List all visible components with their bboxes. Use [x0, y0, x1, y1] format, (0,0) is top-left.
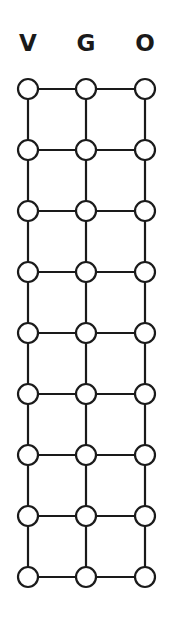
node-o-4: [135, 262, 155, 282]
node-g-9: [76, 567, 96, 587]
node-g-3: [76, 201, 96, 221]
node-g-1: [76, 79, 96, 99]
node-v-6: [18, 384, 38, 404]
node-v-2: [18, 140, 38, 160]
node-o-9: [135, 567, 155, 587]
node-o-2: [135, 140, 155, 160]
node-v-3: [18, 201, 38, 221]
node-v-1: [18, 79, 38, 99]
node-g-5: [76, 323, 96, 343]
node-o-7: [135, 445, 155, 465]
node-o-1: [135, 79, 155, 99]
node-g-2: [76, 140, 96, 160]
node-o-8: [135, 506, 155, 526]
node-g-4: [76, 262, 96, 282]
node-v-9: [18, 567, 38, 587]
node-g-8: [76, 506, 96, 526]
node-o-5: [135, 323, 155, 343]
node-o-3: [135, 201, 155, 221]
node-v-7: [18, 445, 38, 465]
node-g-6: [76, 384, 96, 404]
node-v-5: [18, 323, 38, 343]
node-g-7: [76, 445, 96, 465]
node-v-4: [18, 262, 38, 282]
node-v-8: [18, 506, 38, 526]
node-o-6: [135, 384, 155, 404]
grid-diagram: [0, 0, 171, 624]
